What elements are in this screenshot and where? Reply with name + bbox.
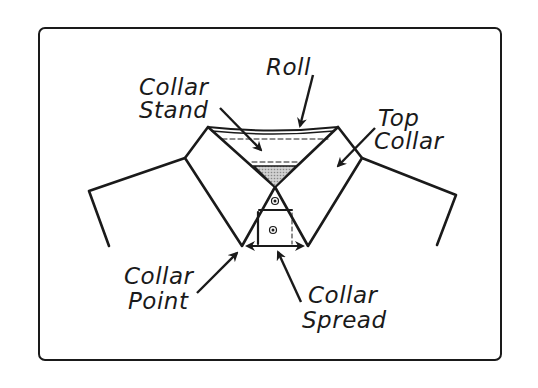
label-roll: Roll [266,55,311,80]
roll-arrow [300,75,313,126]
label-collar-stand-2: Stand [139,98,208,123]
label-collar-point-2: Point [128,289,188,314]
left-shoulder-line [89,158,185,246]
left-top-collar [185,127,275,246]
label-top-collar-2: Collar [374,129,443,154]
collar-spread-pointer-arrow [278,252,301,302]
collar-point-arrow [197,253,237,293]
collar-stand-shade [254,166,296,187]
label-collar-point-1: Collar [124,264,193,289]
label-collar-spread-2: Spread [302,308,387,333]
roll-edge [208,127,338,131]
label-collar-spread-1: Collar [308,283,377,308]
right-shoulder-line [362,158,456,245]
right-top-collar [275,127,362,246]
